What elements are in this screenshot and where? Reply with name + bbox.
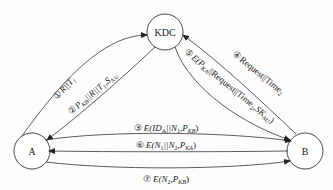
- edge-1-label: ①R||T1: [51, 74, 78, 102]
- node-a-label: A: [28, 146, 36, 157]
- edge-3-label: ③E(IDA||N1,PKB): [134, 123, 199, 134]
- edge-1-arrow: [22, 35, 147, 136]
- edge-7-label: ⑦E(N2,PKB): [143, 174, 189, 185]
- edge-5-label: ⑤E(PKA||Request||Time2,SKAU): [182, 47, 276, 126]
- edge-6-arrow: [49, 151, 288, 152]
- edge-6-label: ⑥E(N1||N2,PKA): [136, 140, 196, 151]
- node-kdc-label: KDC: [154, 27, 175, 38]
- key-exchange-diagram: KDC A B ①R||T1 ②PKB||R||T1,SAU ④Request|…: [0, 0, 333, 190]
- node-kdc: KDC: [147, 14, 183, 50]
- node-b: B: [287, 133, 323, 169]
- diagram-svg: KDC A B ①R||T1 ②PKB||R||T1,SAU ④Request|…: [0, 0, 333, 190]
- edge-7-arrow: [46, 161, 290, 168]
- node-a: A: [14, 133, 50, 169]
- edge-2-label: ②PKB||R||T1,SAU: [66, 69, 120, 117]
- node-b-label: B: [302, 146, 309, 157]
